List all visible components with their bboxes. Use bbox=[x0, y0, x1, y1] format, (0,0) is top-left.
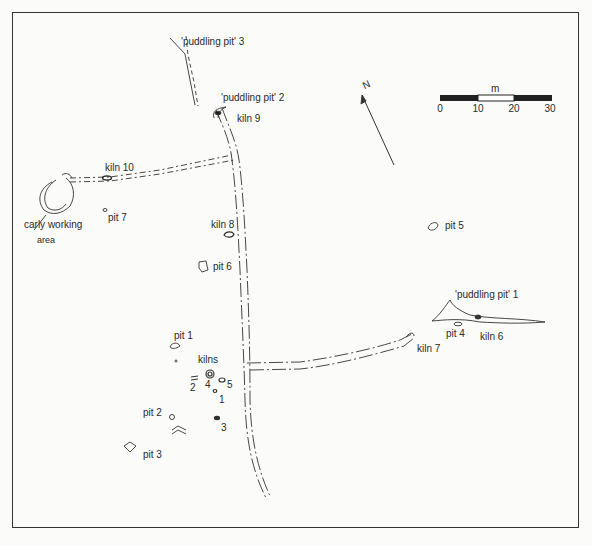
puddling-pit-1-feature bbox=[432, 300, 545, 326]
label-kiln-3: 3 bbox=[221, 423, 227, 433]
label-kiln-8: kiln 8 bbox=[211, 220, 234, 230]
label-pit-4: pit 4 bbox=[446, 329, 465, 339]
label-kiln-1: 1 bbox=[219, 395, 225, 405]
label-pit-1: pit 1 bbox=[174, 331, 193, 341]
label-kiln-9: kiln 9 bbox=[237, 114, 260, 124]
label-pit-5: pit 5 bbox=[445, 221, 464, 231]
label-kiln-6: kiln 6 bbox=[480, 332, 503, 342]
label-puddling-pit-1: 'puddling pit' 1 bbox=[455, 290, 518, 300]
pit-7-shape bbox=[103, 209, 107, 212]
label-pit-3: pit 3 bbox=[143, 450, 162, 460]
north-arrow-icon bbox=[361, 95, 394, 165]
east-channel bbox=[247, 333, 414, 370]
scale-tick-10: 10 bbox=[472, 104, 483, 114]
label-kiln-5: 5 bbox=[227, 380, 233, 390]
pit-4-shape bbox=[454, 322, 462, 326]
kiln-8-shape bbox=[224, 232, 234, 237]
label-puddling-pit-2: 'puddling pit' 2 bbox=[221, 93, 284, 103]
label-kiln-7: kiln 7 bbox=[417, 344, 440, 354]
label-kiln-10: kiln 10 bbox=[105, 163, 134, 173]
pit-2-shape bbox=[170, 415, 175, 420]
label-kilns: kilns bbox=[198, 355, 218, 365]
label-area: area bbox=[37, 236, 55, 245]
pit-1-shape bbox=[170, 343, 180, 348]
scale-unit: m bbox=[491, 84, 499, 94]
site-plan bbox=[0, 0, 592, 546]
label-pit-7: pit 7 bbox=[108, 213, 127, 223]
label-early-working: carly working bbox=[24, 220, 82, 230]
main-channel bbox=[216, 108, 270, 498]
pit-5-shape bbox=[428, 223, 438, 231]
label-puddling-pit-3: 'puddling pit' 3 bbox=[181, 37, 244, 47]
scale-bar bbox=[440, 95, 552, 101]
wavy-feature bbox=[172, 426, 186, 434]
pit-3-shape bbox=[124, 442, 136, 452]
pit-6-shape bbox=[199, 261, 208, 272]
scale-tick-30: 30 bbox=[544, 104, 555, 114]
small-pit bbox=[175, 360, 177, 362]
scale-tick-20: 20 bbox=[508, 104, 519, 114]
label-kiln-4: 4 bbox=[205, 380, 211, 390]
scale-tick-0: 0 bbox=[437, 104, 443, 114]
west-channel bbox=[70, 155, 234, 182]
label-kiln-2: 2 bbox=[190, 383, 196, 393]
label-pit-6: pit 6 bbox=[213, 262, 232, 272]
label-pit-2: pit 2 bbox=[143, 408, 162, 418]
